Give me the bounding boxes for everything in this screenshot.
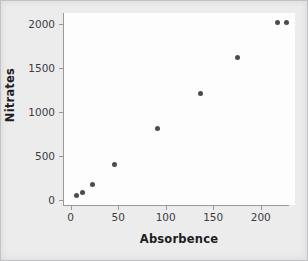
y-tick-mark: [59, 68, 63, 69]
x-tick-label: 100: [146, 212, 186, 223]
y-tick-label: 500: [11, 151, 55, 162]
y-tick-label: 1500: [11, 63, 55, 74]
x-tick-label: 150: [193, 212, 233, 223]
x-tick-label: 0: [51, 212, 91, 223]
x-tick-mark: [118, 206, 119, 210]
x-tick-mark: [71, 206, 72, 210]
x-tick-mark: [213, 206, 214, 210]
y-tick-mark: [59, 156, 63, 157]
y-tick-label: 2000: [11, 19, 55, 30]
data-point: [112, 162, 117, 167]
y-tick-label: 1000: [11, 107, 55, 118]
x-tick-label: 50: [98, 212, 138, 223]
data-point: [155, 126, 160, 131]
plot-area: [63, 13, 295, 205]
y-tick-mark: [59, 112, 63, 113]
scatter-plot-figure: 0500100015002000 050100150200 Absorbence…: [0, 0, 308, 261]
y-axis-title: Nitrates: [3, 55, 17, 135]
x-tick-mark: [166, 206, 167, 210]
data-point: [80, 190, 85, 195]
y-tick-mark: [59, 200, 63, 201]
y-axis-line: [63, 13, 64, 206]
x-axis-line: [63, 205, 289, 206]
y-tick-mark: [59, 24, 63, 25]
x-axis-title: Absorbence: [63, 232, 295, 246]
x-tick-label: 200: [241, 212, 281, 223]
x-tick-mark: [261, 206, 262, 210]
y-tick-label: 0: [11, 195, 55, 206]
